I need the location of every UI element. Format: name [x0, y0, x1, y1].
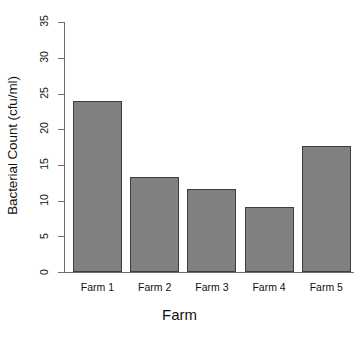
x-axis-title: Farm: [0, 306, 359, 323]
y-tick-20: [58, 129, 64, 130]
y-tick-label-10: 10: [34, 194, 54, 206]
bar-farm-4: [245, 207, 294, 272]
bar-farm-1: [73, 101, 122, 272]
bar-chart: Bacterial Count (cfu/ml) 0 5 10 15 20 25…: [0, 0, 359, 339]
x-tick-label-farm-1: Farm 1: [67, 281, 128, 293]
y-tick-label-0: 0: [34, 266, 54, 278]
x-axis-line: [64, 272, 354, 273]
y-tick-35: [58, 22, 64, 23]
x-tick-label-farm-5: Farm 5: [296, 281, 357, 293]
y-tick-label-15: 15: [34, 158, 54, 170]
y-tick-30: [58, 58, 64, 59]
x-tick-label-farm-2: Farm 2: [124, 281, 185, 293]
bar-farm-5: [302, 146, 351, 272]
y-tick-5: [58, 236, 64, 237]
y-axis-line: [64, 22, 65, 273]
y-axis-title: Bacterial Count (cfu/ml): [0, 0, 24, 290]
x-tick-label-farm-4: Farm 4: [239, 281, 300, 293]
y-tick-25: [58, 94, 64, 95]
bar-farm-3: [187, 189, 236, 272]
y-tick-label-35: 35: [34, 15, 54, 27]
y-axis-title-text: Bacterial Count (cfu/ml): [5, 76, 20, 215]
x-tick-label-farm-3: Farm 3: [181, 281, 242, 293]
y-tick-10: [58, 201, 64, 202]
y-tick-label-30: 30: [34, 51, 54, 63]
y-tick-label-20: 20: [34, 122, 54, 134]
y-tick-label-25: 25: [34, 87, 54, 99]
y-tick-0: [58, 272, 64, 273]
y-tick-15: [58, 165, 64, 166]
y-tick-label-5: 5: [34, 230, 54, 242]
bar-farm-2: [130, 177, 179, 272]
